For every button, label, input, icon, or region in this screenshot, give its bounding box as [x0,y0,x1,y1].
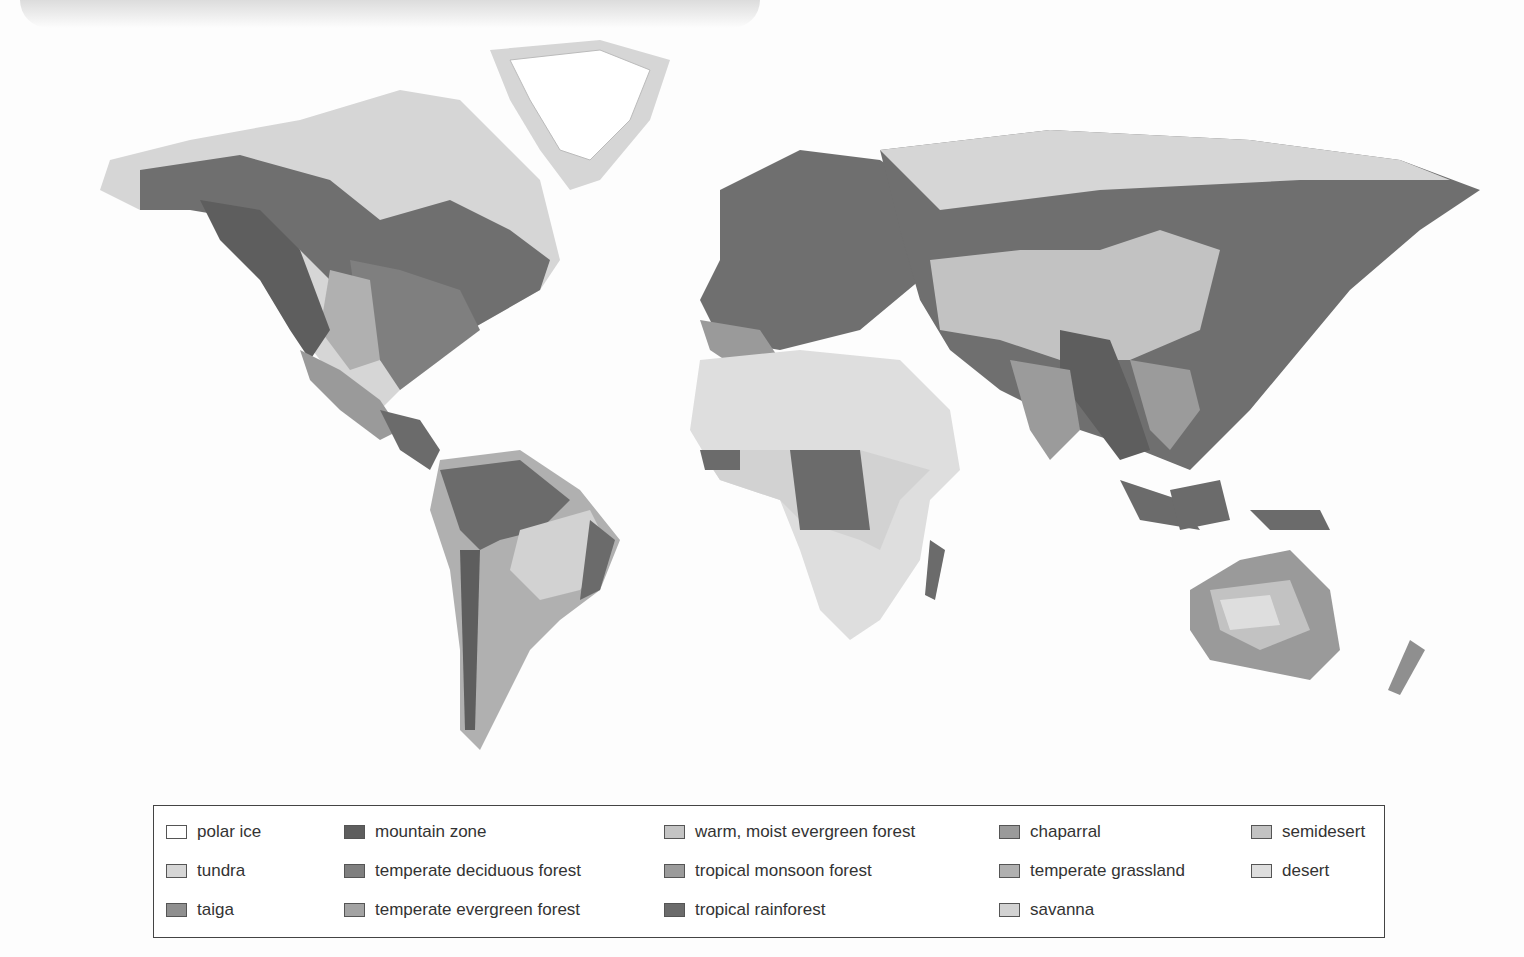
legend-label: semidesert [1282,822,1365,842]
legend-swatch-mountain-zone [344,825,365,839]
region-southeast-asia [1120,480,1330,530]
legend-label: temperate deciduous forest [375,861,581,881]
legend-item-mountain-zone: mountain zone [344,822,487,842]
legend-item-polar-ice: polar ice [166,822,261,842]
legend-swatch-savanna [999,903,1020,917]
region-new-zealand [1388,640,1425,695]
legend-item-taiga: taiga [166,900,234,920]
region-australia [1190,550,1340,680]
legend-swatch-polar-ice [166,825,187,839]
region-asia [880,130,1480,470]
legend-swatch-tropical-rainforest [664,903,685,917]
page-edge-shadow [20,0,760,28]
legend-label: tropical monsoon forest [695,861,872,881]
legend-label: warm, moist evergreen forest [695,822,915,842]
legend-label: savanna [1030,900,1094,920]
legend-item-temperate-evergreen-forest: temperate evergreen forest [344,900,580,920]
legend-item-temperate-grassland: temperate grassland [999,861,1185,881]
legend-item-tropical-rainforest: tropical rainforest [664,900,825,920]
legend-swatch-temperate-grassland [999,864,1020,878]
legend-swatch-temperate-evergreen-forest [344,903,365,917]
legend-swatch-desert [1251,864,1272,878]
legend-label: mountain zone [375,822,487,842]
legend-swatch-semidesert [1251,825,1272,839]
legend-swatch-taiga [166,903,187,917]
legend-swatch-tundra [166,864,187,878]
legend-label: desert [1282,861,1329,881]
legend-label: temperate grassland [1030,861,1185,881]
legend-swatch-chaparral [999,825,1020,839]
region-africa [690,350,960,640]
legend-item-tropical-monsoon-forest: tropical monsoon forest [664,861,872,881]
region-south-america [430,450,620,750]
legend-swatch-temperate-deciduous-forest [344,864,365,878]
region-north-america [100,90,560,470]
legend-label: chaparral [1030,822,1101,842]
legend-label: temperate evergreen forest [375,900,580,920]
map-legend: polar icetundrataigamountain zonetempera… [153,805,1385,938]
legend-swatch-warm-moist-evergreen-forest [664,825,685,839]
legend-item-warm-moist-evergreen-forest: warm, moist evergreen forest [664,822,915,842]
legend-label: tundra [197,861,245,881]
legend-item-semidesert: semidesert [1251,822,1365,842]
legend-item-desert: desert [1251,861,1329,881]
legend-label: tropical rainforest [695,900,825,920]
legend-item-tundra: tundra [166,861,245,881]
legend-label: polar ice [197,822,261,842]
legend-item-temperate-deciduous-forest: temperate deciduous forest [344,861,581,881]
world-biome-map [0,30,1524,770]
legend-swatch-tropical-monsoon-forest [664,864,685,878]
legend-item-chaparral: chaparral [999,822,1101,842]
legend-label: taiga [197,900,234,920]
legend-item-savanna: savanna [999,900,1094,920]
